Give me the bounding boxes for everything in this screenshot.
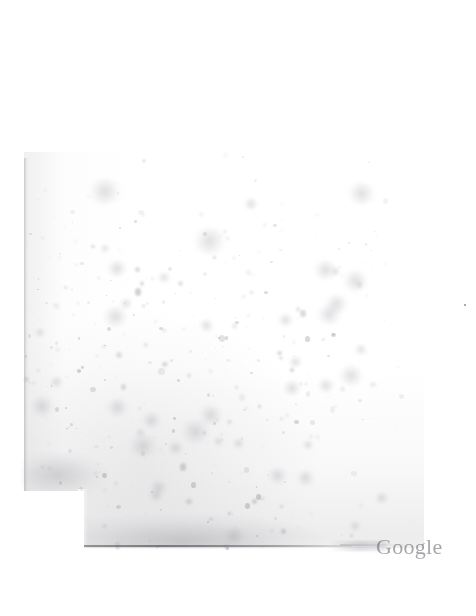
- paper-region: Google: [0, 0, 476, 616]
- page-bottom-edge: [84, 545, 352, 547]
- scanned-page-canvas: Google: [0, 0, 476, 616]
- google-watermark: Google: [376, 534, 443, 560]
- isolated-ink-dot: [464, 304, 466, 306]
- bottom-left-corner-notch: [0, 491, 84, 551]
- corner-notch-feather: [78, 489, 88, 551]
- page-left-edge: [24, 158, 29, 498]
- bottom-edge-smudge: [84, 500, 364, 548]
